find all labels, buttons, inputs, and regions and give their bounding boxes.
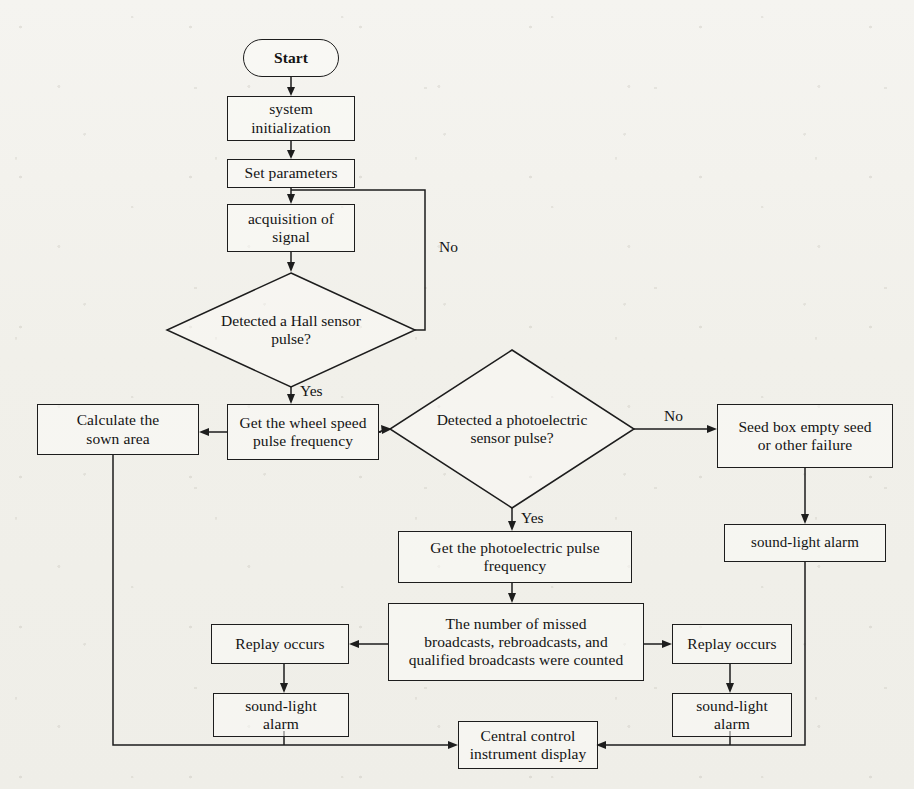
node-system-initialization[interactable]: system initialization xyxy=(227,96,355,141)
node-sound-light-alarm-left[interactable]: sound-light alarm xyxy=(213,693,349,737)
edge-label-hall-no: No xyxy=(439,238,458,256)
node-sound-light-alarm-right-top[interactable]: sound-light alarm xyxy=(724,524,886,562)
edge-label-photoelectric-no: No xyxy=(664,407,683,425)
node-replay-occurs-left[interactable]: Replay occurs xyxy=(211,624,349,664)
node-broadcast-counts[interactable]: The number of missed broadcasts, rebroad… xyxy=(388,603,644,681)
node-central-control-instrument-display[interactable]: Central control instrument display xyxy=(458,721,598,769)
node-acquisition-of-signal[interactable]: acquisition of signal xyxy=(227,204,355,252)
edge-label-photoelectric-yes: Yes xyxy=(521,509,544,527)
node-sound-light-alarm-right[interactable]: sound-light alarm xyxy=(672,693,792,737)
node-calculate-sown-area[interactable]: Calculate the sown area xyxy=(37,404,199,455)
node-start[interactable]: Start xyxy=(243,39,339,77)
flowchart-canvas: Start system initialization Set paramete… xyxy=(0,0,914,789)
node-set-parameters[interactable]: Set parameters xyxy=(227,159,355,188)
node-get-photoelectric-pulse-frequency[interactable]: Get the photoelectric pulse frequency xyxy=(398,531,632,583)
node-seed-box-empty-or-failure[interactable]: Seed box empty seed or other failure xyxy=(717,404,893,468)
node-replay-occurs-right[interactable]: Replay occurs xyxy=(672,624,792,664)
node-get-wheel-speed-pulse-frequency[interactable]: Get the wheel speed pulse frequency xyxy=(227,404,379,460)
edge-label-hall-yes: Yes xyxy=(300,382,323,400)
